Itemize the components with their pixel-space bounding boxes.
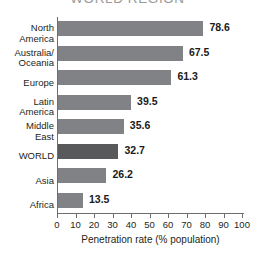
bar: [58, 21, 203, 36]
category-label: Middle East: [0, 121, 54, 142]
bar-value-label: 13.5: [89, 192, 109, 207]
x-axis-tick-label: 90: [218, 219, 229, 230]
x-axis-tick: [168, 214, 169, 218]
bar: [58, 95, 131, 110]
x-axis-tick: [94, 214, 95, 218]
bar: [58, 193, 83, 208]
x-axis-tick-label: 20: [89, 219, 100, 230]
bar-row: 39.5: [58, 91, 243, 116]
x-axis-tick-label: 80: [200, 219, 211, 230]
bar-value-label: 39.5: [137, 94, 157, 109]
x-axis-tick-labels: 0102030405060708090100: [57, 219, 244, 231]
category-label: Africa: [0, 200, 54, 211]
bar-chart: WORLD REGION North AmericaAustralia/ Oce…: [0, 0, 255, 272]
bar: [58, 168, 106, 183]
bar-row: 32.7: [58, 140, 243, 165]
bar-row: 13.5: [58, 189, 243, 214]
x-axis-tick: [131, 214, 132, 218]
x-axis-tick-label: 50: [144, 219, 155, 230]
category-label: Latin America: [0, 97, 54, 118]
x-axis-tick-label: 40: [126, 219, 137, 230]
bar: [58, 119, 124, 134]
category-label: Asia: [0, 176, 54, 187]
category-label: Australia/ Oceania: [0, 48, 54, 69]
x-axis-tick: [150, 214, 151, 218]
plot-area: 78.667.561.339.535.632.726.213.5: [58, 17, 243, 213]
x-axis-tick-label: 0: [54, 219, 59, 230]
bar-value-label: 32.7: [124, 143, 144, 158]
bar: [58, 144, 118, 159]
category-axis-labels: North AmericaAustralia/ OceaniaEuropeLat…: [0, 17, 54, 213]
x-axis-tick: [205, 214, 206, 218]
x-axis-tick: [224, 214, 225, 218]
bar-row: 61.3: [58, 66, 243, 91]
x-axis-ticks: [57, 214, 244, 218]
bar-row: 67.5: [58, 42, 243, 67]
bar-value-label: 26.2: [112, 167, 132, 182]
category-label: North America: [0, 23, 54, 44]
x-axis-title: Penetration rate (% population): [57, 234, 244, 245]
x-axis-tick: [242, 214, 243, 218]
bar: [58, 46, 183, 61]
bar-value-label: 78.6: [209, 20, 229, 35]
bar-row: 78.6: [58, 17, 243, 42]
x-axis-tick: [76, 214, 77, 218]
x-axis-tick-label: 60: [163, 219, 174, 230]
x-axis-tick-label: 70: [181, 219, 192, 230]
category-label: WORLD: [0, 151, 54, 162]
bar: [58, 70, 171, 85]
x-axis-tick-label: 30: [107, 219, 118, 230]
chart-title: WORLD REGION: [0, 0, 255, 6]
x-axis-tick: [113, 214, 114, 218]
category-label: Europe: [0, 78, 54, 89]
x-axis-tick-label: 10: [70, 219, 81, 230]
bar-row: 26.2: [58, 164, 243, 189]
x-axis-tick: [57, 214, 58, 218]
bar-value-label: 67.5: [189, 45, 209, 60]
bar-row: 35.6: [58, 115, 243, 140]
bar-value-label: 61.3: [177, 69, 197, 84]
x-axis-tick: [187, 214, 188, 218]
x-axis-tick-label: 100: [234, 219, 250, 230]
bar-value-label: 35.6: [130, 118, 150, 133]
